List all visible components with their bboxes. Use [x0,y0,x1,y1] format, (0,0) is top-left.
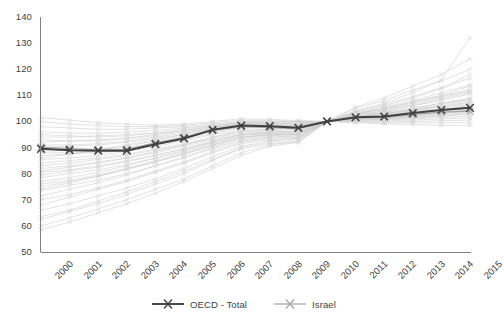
background-series-marker [210,166,214,170]
y-axis-tick-label: 80 [2,168,32,179]
background-series-marker [125,198,129,202]
background-series-marker [153,164,157,168]
legend-label-israel: Israel [312,299,336,310]
background-series-line [41,38,470,226]
legend-marker-israel [273,298,307,310]
background-series-marker [411,88,415,92]
background-series-group [39,36,472,232]
background-series-marker [96,199,100,203]
y-axis-tick-label: 140 [2,11,32,22]
background-series-line [41,94,470,200]
background-series-line [41,74,470,219]
background-series-marker [96,211,100,215]
background-series-marker [182,179,186,183]
background-series-marker [67,216,71,220]
background-series-marker [125,186,129,190]
y-axis-tick-label: 60 [2,220,32,231]
y-axis-tick-label: 50 [2,246,32,257]
background-series-marker [153,191,157,195]
background-series-marker [468,76,472,80]
background-series-marker [125,190,129,194]
background-series-marker [153,179,157,183]
background-series-marker [468,57,472,61]
chart-legend: OECD - Total Israel [0,298,487,310]
background-series-marker [468,72,472,76]
y-axis-tick-label: 120 [2,63,32,74]
background-series-marker [468,67,472,71]
background-series-marker [382,96,386,100]
background-series-marker [239,153,243,157]
background-series-marker [468,36,472,40]
legend-label-oecd-total: OECD - Total [190,299,247,310]
background-series-marker [96,194,100,198]
background-series-marker [182,169,186,173]
background-series-marker [96,207,100,211]
y-axis-tick-label: 110 [2,89,32,100]
background-series-marker [411,84,415,88]
background-series-marker [67,195,71,199]
background-series-marker [439,91,443,95]
legend-item-oecd-total[interactable]: OECD - Total [151,298,247,310]
background-series-marker [67,220,71,224]
legend-item-israel[interactable]: Israel [273,298,336,310]
background-series-marker [439,72,443,76]
legend-marker-oecd-total [151,298,185,310]
y-axis-tick-label: 130 [2,37,32,48]
y-axis-tick-label: 100 [2,115,32,126]
y-axis-tick-label: 70 [2,194,32,205]
y-axis-tick-label: 90 [2,142,32,153]
background-series-marker [125,201,129,205]
background-series-marker [153,187,157,191]
